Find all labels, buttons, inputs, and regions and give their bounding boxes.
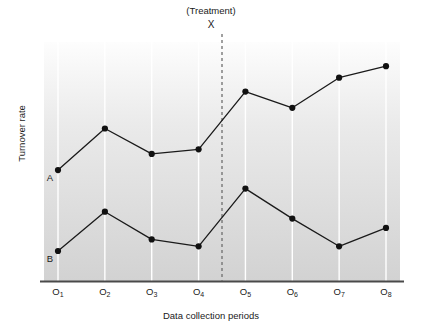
data-point[interactable]: [196, 146, 202, 152]
data-point[interactable]: [102, 125, 108, 131]
data-point[interactable]: [289, 216, 295, 222]
data-point[interactable]: [289, 105, 295, 111]
series-label-B: B: [47, 252, 56, 263]
x-tick-O2: O2: [99, 286, 110, 298]
data-point[interactable]: [336, 243, 342, 249]
data-point[interactable]: [149, 151, 155, 157]
data-point[interactable]: [196, 243, 202, 249]
data-point[interactable]: [242, 186, 248, 192]
x-tick-O8: O8: [380, 286, 391, 298]
data-point[interactable]: [102, 209, 108, 215]
data-point[interactable]: [383, 225, 389, 231]
chart-container: (Treatment) X Turnover rate Data collect…: [0, 0, 422, 328]
data-point[interactable]: [336, 75, 342, 81]
x-tick-O5: O5: [240, 286, 251, 298]
x-tick-O4: O4: [193, 286, 204, 298]
series-label-A: A: [47, 172, 56, 183]
x-tick-O6: O6: [287, 286, 298, 298]
plot-svg: [0, 0, 422, 328]
x-tick-O7: O7: [333, 286, 344, 298]
data-point[interactable]: [149, 236, 155, 242]
x-tick-O1: O1: [52, 286, 63, 298]
data-point[interactable]: [383, 63, 389, 69]
data-point[interactable]: [242, 89, 248, 95]
x-tick-O3: O3: [146, 286, 157, 298]
